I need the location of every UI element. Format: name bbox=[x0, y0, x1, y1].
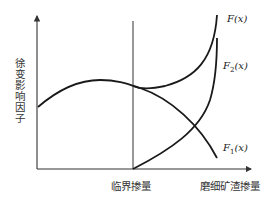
curve-label-f1: F1(x) bbox=[223, 142, 248, 156]
curve-label-f: F(x) bbox=[227, 13, 247, 24]
curve-f1 bbox=[38, 80, 217, 158]
curve-f2 bbox=[133, 38, 217, 169]
creep-factor-diagram: 徐变影响因子 临界掺量 磨细矿渣掺量 F(x) F2(x) F1(x) bbox=[0, 0, 274, 203]
y-axis-label: 徐变影响因子 bbox=[13, 58, 27, 128]
curve-label-f2: F2(x) bbox=[223, 60, 248, 74]
diagram-canvas bbox=[0, 0, 274, 203]
critical-dosage-label: 临界掺量 bbox=[111, 178, 151, 193]
curve-f bbox=[133, 15, 217, 89]
x-axis-label: 磨细矿渣掺量 bbox=[200, 178, 260, 193]
